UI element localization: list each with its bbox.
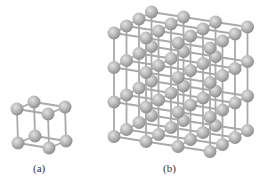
atom-sphere — [197, 57, 210, 70]
atom-sphere — [140, 135, 153, 148]
atom-sphere — [29, 130, 42, 143]
atom-sphere — [59, 101, 72, 114]
panel-label-a: (a) — [33, 163, 45, 174]
atom-sphere — [152, 25, 165, 38]
atom-sphere — [60, 135, 73, 148]
atom-sphere — [172, 71, 185, 84]
atom-sphere — [197, 92, 210, 105]
atom-sphere — [152, 128, 165, 141]
atom-sphere — [184, 99, 197, 112]
atom-sphere — [165, 52, 178, 65]
atom-sphere — [184, 64, 197, 77]
atom-sphere — [165, 18, 178, 31]
lattice-diagram — [0, 0, 261, 183]
atom-sphere — [120, 20, 133, 33]
atom-sphere — [184, 133, 197, 146]
atom-sphere — [216, 138, 229, 151]
atom-sphere — [204, 145, 217, 158]
atom-sphere — [229, 28, 242, 41]
atom-sphere — [241, 124, 254, 137]
atom-sphere — [28, 96, 41, 109]
atom-sphere — [229, 131, 242, 144]
atom-sphere — [216, 35, 229, 48]
atom-sphere — [108, 61, 121, 74]
atom-sphere — [204, 111, 217, 124]
atom-sphere — [165, 87, 178, 100]
atom-sphere — [12, 137, 25, 150]
atom-sphere — [120, 89, 133, 102]
atom-sphere — [209, 16, 222, 29]
atom-sphere — [216, 104, 229, 117]
crystal-lattice-figure: (a) (b) — [0, 0, 261, 183]
atom-sphere — [152, 94, 165, 107]
atom-sphere — [140, 32, 153, 45]
atom-sphere — [11, 103, 24, 116]
atom-sphere — [152, 59, 165, 72]
atom-sphere — [108, 96, 121, 109]
atom-sphere — [133, 82, 146, 95]
panel-label-b: (b) — [163, 163, 176, 174]
atom-sphere — [145, 6, 158, 19]
atom-sphere — [120, 54, 133, 67]
atom-sphere — [229, 62, 242, 75]
atom-sphere — [241, 55, 254, 68]
atom-sphere — [172, 140, 185, 153]
atom-sphere — [241, 90, 254, 103]
atom-sphere — [133, 116, 146, 129]
atom-sphere — [43, 142, 56, 155]
atom-sphere — [42, 108, 55, 121]
atom-sphere — [140, 66, 153, 79]
atom-sphere — [204, 76, 217, 89]
atom-sphere — [204, 42, 217, 55]
atom-sphere — [108, 130, 121, 143]
atom-sphere — [120, 123, 133, 136]
atom-sphere — [172, 37, 185, 50]
atom-sphere — [216, 69, 229, 82]
atom-sphere — [177, 11, 190, 24]
lattice-block-diagram — [108, 6, 255, 159]
unit-cell-diagram — [11, 96, 73, 155]
atom-sphere — [108, 27, 121, 40]
atom-sphere — [133, 47, 146, 60]
atom-sphere — [172, 106, 185, 119]
atom-sphere — [229, 97, 242, 110]
atom-sphere — [197, 23, 210, 36]
atom-sphere — [241, 21, 254, 34]
atom-sphere — [133, 13, 146, 26]
atom-sphere — [140, 101, 153, 114]
atom-sphere — [165, 121, 178, 134]
atom-sphere — [197, 126, 210, 139]
atom-sphere — [184, 30, 197, 43]
